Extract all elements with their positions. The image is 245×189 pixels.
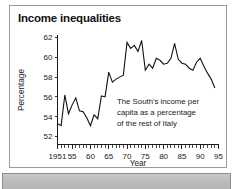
y-tick-group: 525456586062 <box>44 33 58 141</box>
chart-title: Income inequalities <box>18 12 121 24</box>
y-tick-label: 58 <box>44 73 53 82</box>
x-tick-label: 95 <box>214 152 223 161</box>
x-tick-label: 65 <box>104 152 113 161</box>
x-tick-label: 80 <box>159 152 168 161</box>
x-tick-label: 90 <box>196 152 205 161</box>
x-tick-label: 85 <box>177 152 186 161</box>
chart-svg: 525456586062 1951556065707580859095 Perc… <box>10 30 228 169</box>
y-tick-label: 54 <box>44 113 53 122</box>
annotation-line-2: capita as a percentage <box>117 108 196 117</box>
y-tick-label: 56 <box>44 93 53 102</box>
x-tick-label: 55 <box>68 152 77 161</box>
bottom-gray-band <box>2 173 231 189</box>
y-tick-label: 60 <box>44 53 53 62</box>
y-tick-label: 52 <box>44 132 53 141</box>
annotation-line-1: The South's income per <box>117 97 200 106</box>
x-tick-label: 1951 <box>49 152 67 161</box>
x-tick-label: 60 <box>86 152 95 161</box>
annotation-line-3: of the rest of Italy <box>117 119 177 128</box>
y-tick-label: 62 <box>44 33 53 42</box>
chart-card: Income inequalities 525456586062 1951556… <box>9 5 227 168</box>
chart-figure: Income inequalities 525456586062 1951556… <box>0 0 245 189</box>
x-axis-title: Year <box>130 159 147 168</box>
y-axis-title: Percentage <box>17 69 26 111</box>
plot-area: 525456586062 1951556065707580859095 Perc… <box>10 30 228 169</box>
